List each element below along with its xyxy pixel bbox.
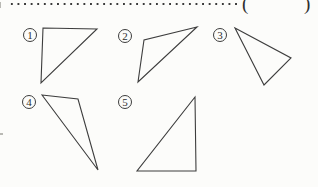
triangle-figure-3 [235, 28, 291, 85]
figure-number-3: 3 [213, 28, 227, 42]
scan-artifact [0, 2, 1, 8]
triangle-figure-2 [138, 27, 197, 82]
figure-number-4: 4 [22, 95, 36, 109]
worksheet-page: ( ) 12345 [0, 0, 318, 187]
figure-number-5: 5 [118, 95, 132, 109]
triangle-figure-4 [42, 95, 98, 170]
triangle-figure-1 [41, 28, 97, 83]
figure-number-1: 1 [23, 28, 37, 42]
triangle-figures-canvas [0, 0, 318, 187]
triangle-figure-5 [137, 97, 196, 171]
scan-artifact [0, 133, 3, 135]
figure-number-2: 2 [118, 29, 132, 43]
